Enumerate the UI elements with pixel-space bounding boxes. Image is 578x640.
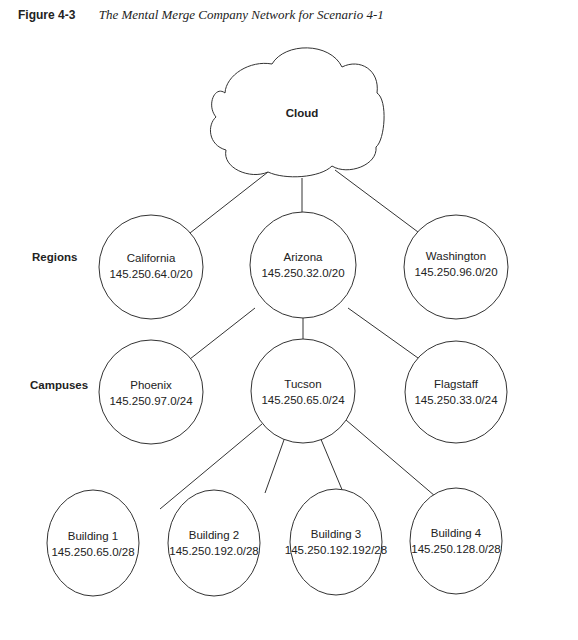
node-name: Tucson [284,378,321,390]
node-name: Arizona [284,251,324,263]
node-subnet: 145.250.192.0/28 [169,545,259,557]
region-washington: Washington 145.250.96.0/20 [404,215,508,319]
node-subnet: 145.250.65.0/24 [261,394,345,406]
building-3: Building 3 145.250.192.192/28 [285,489,387,595]
tier-label-regions: Regions [32,251,77,263]
cloud-node: Cloud [210,48,384,177]
node-name: Building 4 [431,527,482,539]
node-subnet: 145.250.128.0/28 [411,543,501,555]
node-name: Phoenix [130,379,172,391]
campus-flagstaff: Flagstaff 145.250.33.0/24 [405,341,507,443]
node-name: Flagstaff [434,378,479,390]
node-subnet: 145.250.96.0/20 [414,266,497,278]
node-name: Building 2 [189,529,240,541]
node-name: Building 1 [68,530,119,542]
cloud-label: Cloud [286,107,319,119]
node-name: Building 3 [311,528,362,540]
network-diagram: Cloud Regions Campuses California 145.25… [0,0,578,640]
campus-tucson: Tucson 145.250.65.0/24 [251,339,355,443]
tier-label-campuses: Campuses [30,379,88,391]
node-subnet: 145.250.33.0/24 [414,394,498,406]
building-1: Building 1 145.250.65.0/28 [47,490,139,596]
node-subnet: 145.250.97.0/24 [109,395,193,407]
node-name: Washington [426,250,486,262]
node-subnet: 145.250.65.0/28 [51,546,134,558]
region-arizona: Arizona 145.250.32.0/20 [250,212,356,318]
region-california: California 145.250.64.0/20 [99,215,203,319]
campus-phoenix: Phoenix 145.250.97.0/24 [99,340,203,444]
node-subnet: 145.250.192.192/28 [285,544,387,556]
node-subnet: 145.250.64.0/20 [109,268,192,280]
node-subnet: 145.250.32.0/20 [261,267,344,279]
building-4: Building 4 145.250.128.0/28 [410,488,502,594]
building-2: Building 2 145.250.192.0/28 [168,490,260,596]
node-name: California [127,252,176,264]
